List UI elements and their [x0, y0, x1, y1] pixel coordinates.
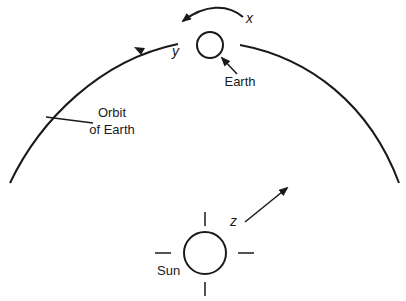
- earth-pointer-line: [222, 58, 237, 74]
- x-rotation-arrow: [183, 8, 243, 21]
- orbit-leader-line: [46, 117, 93, 123]
- z-label: z: [230, 214, 237, 228]
- orbit-right-arc: [240, 45, 399, 183]
- earth-label: Earth: [224, 75, 255, 88]
- orbit-label-line2: of Earth: [89, 123, 135, 136]
- orbit-left-arc: [10, 44, 178, 183]
- sun-label: Sun: [157, 264, 180, 277]
- earth-icon: [197, 32, 223, 58]
- orbit-label-line1: Orbit: [98, 106, 126, 119]
- y-label: y: [172, 44, 179, 58]
- orbit-diagram: [0, 0, 406, 301]
- sun-icon: [184, 232, 226, 274]
- z-arrow: [245, 188, 287, 222]
- x-label: x: [246, 11, 253, 25]
